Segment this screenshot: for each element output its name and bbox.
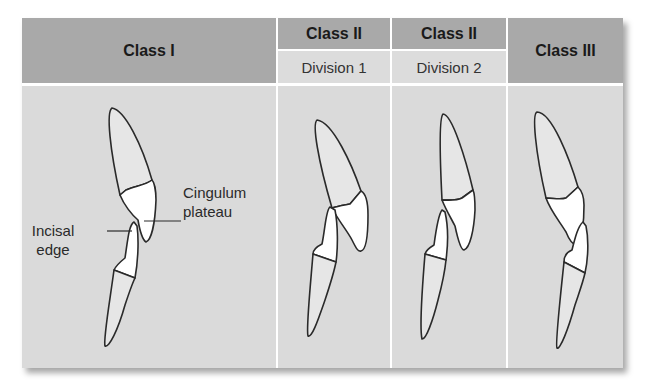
lower-incisor-root: [105, 270, 135, 346]
incisal-label-line1: Incisal: [28, 221, 78, 240]
cingulum-label: Cingulum plateau: [183, 183, 246, 221]
teeth-illustration: [0, 0, 646, 389]
cingulum-label-line1: Cingulum: [183, 183, 246, 202]
class-3-teeth-diagram: [535, 112, 588, 348]
class-2-div-2-teeth-diagram: [421, 114, 475, 339]
incisal-label-line2: edge: [28, 240, 78, 259]
incisal-edge-label: Incisal edge: [28, 221, 78, 259]
upper-incisor-root: [109, 108, 152, 195]
cingulum-label-line2: plateau: [183, 202, 246, 221]
class-1-teeth-diagram: [105, 108, 181, 346]
class-2-div-1-teeth-diagram: [307, 120, 368, 336]
